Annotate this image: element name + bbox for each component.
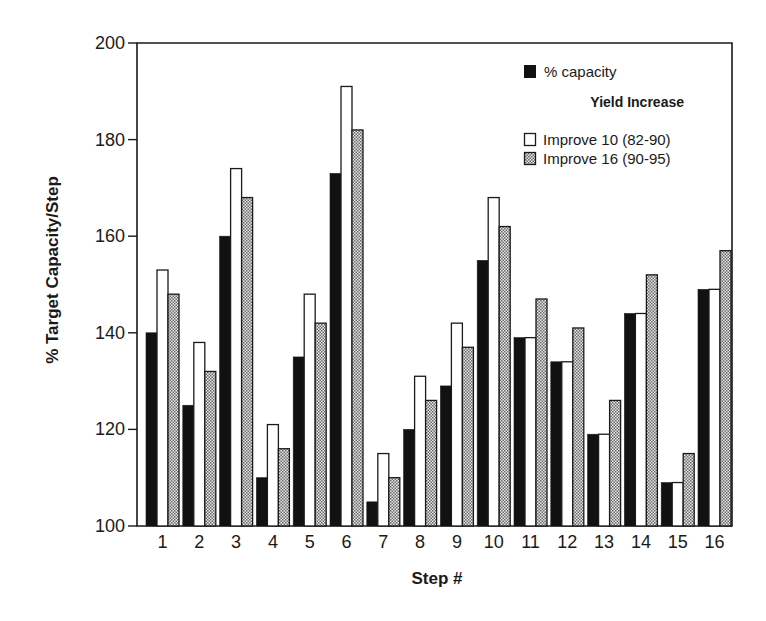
x-tick-label: 11 bbox=[521, 532, 540, 552]
bar-improve16 bbox=[646, 275, 657, 526]
bar-capacity bbox=[661, 483, 672, 526]
y-axis-title: % Target Capacity/Step bbox=[43, 176, 62, 364]
bar-capacity bbox=[477, 260, 488, 526]
bar-improve16 bbox=[499, 227, 510, 526]
x-tick-label: 10 bbox=[484, 532, 504, 552]
y-tick-label: 200 bbox=[95, 33, 125, 53]
x-tick-label: 3 bbox=[231, 532, 241, 552]
x-tick-label: 16 bbox=[704, 532, 724, 552]
legend-swatch-improve10 bbox=[525, 134, 536, 146]
bar-capacity bbox=[220, 236, 231, 526]
bar-improve16 bbox=[315, 323, 326, 526]
bar-improve10 bbox=[415, 376, 426, 526]
bar-capacity bbox=[183, 405, 194, 526]
bar-improve10 bbox=[525, 338, 536, 526]
bar-improve10 bbox=[194, 342, 205, 526]
bar-improve10 bbox=[267, 425, 278, 526]
bar-capacity bbox=[146, 333, 157, 526]
bar-improve10 bbox=[451, 323, 462, 526]
bar-capacity bbox=[551, 362, 562, 526]
x-tick-label: 1 bbox=[157, 532, 167, 552]
x-tick-label: 8 bbox=[415, 532, 425, 552]
bar-improve16 bbox=[536, 299, 547, 526]
legend-label-capacity: % capacity bbox=[544, 63, 617, 80]
bar-capacity bbox=[440, 386, 451, 526]
bar-capacity bbox=[256, 478, 267, 526]
x-tick-label: 15 bbox=[668, 532, 688, 552]
x-axis: 12345678910111213141516 bbox=[157, 532, 724, 552]
bar-improve16 bbox=[352, 130, 363, 526]
bar-improve16 bbox=[610, 400, 621, 526]
bar-capacity bbox=[698, 289, 709, 526]
legend-title: Yield Increase bbox=[590, 94, 684, 110]
bar-improve16 bbox=[683, 454, 694, 526]
bar-chart: 100120140160180200 123456789101112131415… bbox=[0, 0, 766, 621]
bar-capacity bbox=[404, 429, 415, 526]
bar-improve16 bbox=[426, 400, 437, 526]
y-axis: 100120140160180200 bbox=[95, 33, 137, 536]
bar-improve10 bbox=[304, 294, 315, 526]
bar-improve16 bbox=[462, 347, 473, 526]
x-tick-label: 12 bbox=[557, 532, 577, 552]
bar-improve16 bbox=[242, 198, 253, 526]
bar-improve16 bbox=[389, 478, 400, 526]
bar-improve10 bbox=[672, 483, 683, 526]
bar-improve10 bbox=[341, 86, 352, 526]
legend-swatch-improve16 bbox=[525, 153, 536, 165]
x-tick-label: 4 bbox=[268, 532, 278, 552]
legend-swatch-capacity bbox=[524, 65, 536, 78]
x-tick-label: 14 bbox=[631, 532, 651, 552]
x-tick-label: 9 bbox=[452, 532, 462, 552]
bar-improve10 bbox=[157, 270, 168, 526]
bar-capacity bbox=[588, 434, 599, 526]
bar-improve10 bbox=[635, 313, 646, 526]
x-tick-label: 6 bbox=[341, 532, 351, 552]
y-tick-label: 180 bbox=[95, 130, 125, 150]
bar-improve10 bbox=[562, 362, 573, 526]
bar-improve16 bbox=[205, 371, 216, 526]
bar-improve10 bbox=[599, 434, 610, 526]
bar-improve16 bbox=[720, 251, 731, 526]
bar-capacity bbox=[514, 338, 525, 526]
bar-improve10 bbox=[378, 454, 389, 526]
bar-improve16 bbox=[168, 294, 179, 526]
y-tick-label: 160 bbox=[95, 226, 125, 246]
bar-capacity bbox=[293, 357, 304, 526]
bar-improve10 bbox=[231, 169, 242, 526]
legend: % capacity Yield Increase Improve 10 (82… bbox=[524, 63, 684, 167]
bar-capacity bbox=[624, 313, 635, 526]
bar-improve10 bbox=[709, 289, 720, 526]
x-tick-label: 13 bbox=[594, 532, 614, 552]
bar-improve10 bbox=[488, 198, 499, 526]
y-tick-label: 140 bbox=[95, 323, 125, 343]
y-tick-label: 100 bbox=[95, 516, 125, 536]
x-axis-title: Step # bbox=[411, 569, 463, 588]
bar-improve16 bbox=[278, 449, 289, 526]
x-tick-label: 2 bbox=[194, 532, 204, 552]
legend-label-improve16: Improve 16 (90-95) bbox=[543, 150, 671, 167]
x-tick-label: 5 bbox=[305, 532, 315, 552]
y-tick-label: 120 bbox=[95, 419, 125, 439]
legend-label-improve10: Improve 10 (82-90) bbox=[543, 131, 671, 148]
x-tick-label: 7 bbox=[378, 532, 388, 552]
bar-capacity bbox=[367, 502, 378, 526]
bar-improve16 bbox=[573, 328, 584, 526]
bar-capacity bbox=[330, 173, 341, 526]
